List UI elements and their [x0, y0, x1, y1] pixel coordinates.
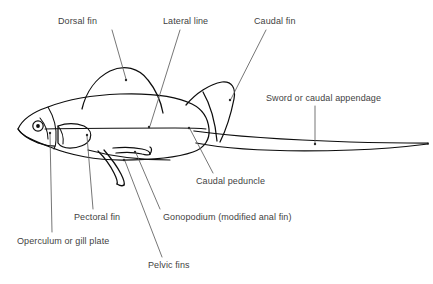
- sword-appendage-top-edge: [194, 131, 428, 143]
- anchor-dot-pectoral-fin: [86, 134, 88, 136]
- anchor-dot-operculum-or-gill-plate: [49, 132, 51, 134]
- label-dorsal-fin: Dorsal fin: [58, 16, 97, 27]
- leader-line-lateral-line: [150, 30, 180, 126]
- fish-eye-pupil: [36, 124, 40, 128]
- label-sword-or-caudal-appendage: Sword or caudal appendage: [266, 93, 381, 104]
- gonopodium-tip: [150, 147, 152, 154]
- anchor-dot-caudal-fin: [229, 99, 231, 101]
- label-operculum-or-gill-plate: Operculum or gill plate: [17, 236, 109, 247]
- gonopodium-bottom-edge: [116, 152, 150, 155]
- leader-line-pectoral-fin: [87, 136, 93, 209]
- fish-body-outline: [18, 94, 209, 160]
- anchor-dot-pelvic-fins: [123, 159, 125, 161]
- anchor-dot-dorsal-fin: [125, 79, 127, 81]
- leader-line-gonopodium: [136, 153, 160, 209]
- leader-line-caudal-peduncle: [190, 129, 213, 173]
- fish-anatomy-diagram: Dorsal fin Lateral line Caudal fin Sword…: [0, 0, 433, 284]
- anchor-dot-lateral-line: [148, 126, 150, 128]
- pelvic-fin-tip-shape: [117, 184, 124, 186]
- leader-line-dorsal-fin: [112, 30, 126, 79]
- label-gonopodium: Gonopodium (modified anal fin): [163, 212, 292, 223]
- label-pectoral-fin: Pectoral fin: [74, 212, 120, 223]
- label-lateral-line: Lateral line: [163, 16, 208, 27]
- leader-line-operculum-or-gill-plate: [50, 134, 52, 232]
- dorsal-fin-shape: [82, 68, 163, 113]
- leader-line-caudal-fin: [231, 30, 266, 99]
- leader-line-pelvic-fins: [125, 161, 162, 257]
- anchor-dot-caudal-peduncle: [188, 127, 190, 129]
- anchor-dot-gonopodium: [134, 151, 136, 153]
- label-pelvic-fins: Pelvic fins: [148, 260, 190, 271]
- operculum-shape: [48, 107, 56, 149]
- label-caudal-peduncle: Caudal peduncle: [196, 176, 265, 187]
- sword-appendage-bottom-edge: [196, 143, 428, 151]
- fish-illustration: [18, 68, 428, 186]
- label-caudal-fin: Caudal fin: [254, 16, 296, 27]
- anchor-dot-sword-or-caudal-appendage: [314, 143, 316, 145]
- lateral-line-shape: [45, 128, 206, 129]
